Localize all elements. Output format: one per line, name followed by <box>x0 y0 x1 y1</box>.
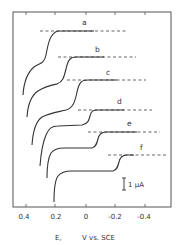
curve-e-label: e <box>127 119 132 128</box>
curve-c <box>32 80 117 145</box>
curve-f-label: f <box>140 143 143 152</box>
curve-c-label: c <box>106 68 110 77</box>
curve-a <box>23 31 94 95</box>
curve-f <box>54 155 134 202</box>
x-tick-0.4: 0.4 <box>18 213 30 221</box>
scale-bar: 1 µA <box>122 178 144 190</box>
chart-svg: 0.4 0.2 0 -0.2 -0.4 E, V vs. SCE 1 µA a … <box>0 0 181 245</box>
polarogram-figure: 0.4 0.2 0 -0.2 -0.4 E, V vs. SCE 1 µA a … <box>0 0 181 245</box>
curve-a-label: a <box>82 18 87 27</box>
curve-b-label: b <box>95 45 100 54</box>
x-tick-0.2: 0.2 <box>50 213 61 221</box>
curve-d <box>40 110 124 166</box>
scale-bar-label: 1 µA <box>128 181 144 189</box>
x-tick-neg0.4: -0.4 <box>137 213 151 221</box>
x-axis-unit: V vs. SCE <box>82 234 115 242</box>
curve-d-label: d <box>117 97 122 106</box>
x-tick-0: 0 <box>84 213 88 221</box>
x-tick-neg0.2: -0.2 <box>108 213 122 221</box>
x-axis-symbol: E, <box>55 234 62 242</box>
plot-frame <box>13 12 171 207</box>
curve-b <box>27 57 104 117</box>
